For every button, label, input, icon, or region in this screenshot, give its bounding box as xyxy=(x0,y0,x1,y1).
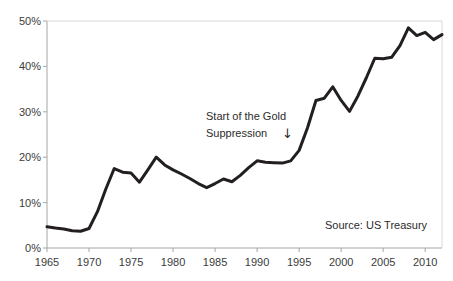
x-tick-label: 1975 xyxy=(119,256,143,268)
y-tick-label: 20% xyxy=(8,151,41,163)
y-tick-label: 40% xyxy=(8,60,41,72)
annotation-line-2: Suppression xyxy=(206,125,267,141)
x-tick-label: 2010 xyxy=(413,256,437,268)
y-tick-label: 50% xyxy=(8,15,41,27)
y-tick-label: 30% xyxy=(8,106,41,118)
annotation-line-1: Start of the Gold xyxy=(206,108,286,124)
x-tick-label: 1995 xyxy=(287,256,311,268)
x-tick-label: 1980 xyxy=(161,256,185,268)
x-tick-label: 1985 xyxy=(203,256,227,268)
y-tick-label: 0% xyxy=(8,242,41,254)
source-note: Source: US Treasury xyxy=(325,219,427,231)
x-tick-label: 2000 xyxy=(329,256,353,268)
y-tick-label: 10% xyxy=(8,197,41,209)
x-tick-label: 2005 xyxy=(371,256,395,268)
x-tick-label: 1965 xyxy=(35,256,59,268)
annotation-down-arrow-icon: ↓ xyxy=(282,127,293,140)
x-tick-label: 1990 xyxy=(245,256,269,268)
x-tick-label: 1970 xyxy=(77,256,101,268)
chart-container: 0%10%20%30%40%50% 1965197019751980198519… xyxy=(0,0,453,281)
